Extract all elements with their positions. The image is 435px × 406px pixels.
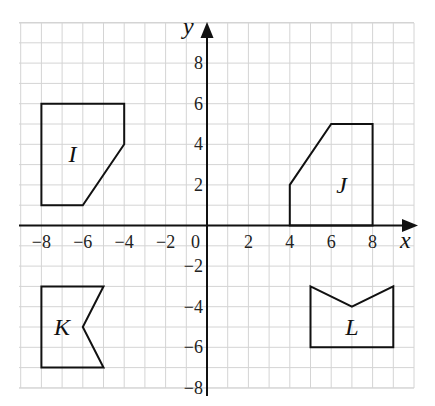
- x-axis-label: x: [399, 227, 411, 253]
- x-tick-label: −4: [115, 232, 134, 252]
- y-tick-label: −6: [184, 337, 203, 357]
- origin-label: 0: [191, 232, 200, 252]
- x-tick-label: −6: [73, 232, 92, 252]
- x-tick-label: −2: [156, 232, 175, 252]
- coordinate-grid-figure: x y 0 −8−6−4−224688642−2−4−6−8 IJKL: [0, 0, 435, 406]
- shape-k-label: K: [53, 314, 72, 340]
- y-tick-label: 8: [194, 53, 203, 73]
- y-tick-label: 2: [194, 175, 203, 195]
- y-tick-label: 6: [194, 94, 203, 114]
- y-tick-label: −8: [184, 378, 203, 398]
- x-tick-label: 6: [327, 232, 336, 252]
- shapes: IJKL: [41, 104, 393, 368]
- y-tick-label: −2: [184, 256, 203, 276]
- shape-l-label: L: [344, 314, 358, 340]
- x-tick-label: 2: [244, 232, 253, 252]
- x-tick-label: 8: [368, 232, 377, 252]
- x-tick-label: −8: [32, 232, 51, 252]
- y-axis-arrow-icon: [201, 22, 214, 38]
- x-tick-label: 4: [285, 232, 294, 252]
- y-tick-label: −4: [184, 297, 203, 317]
- shape-i-label: I: [67, 141, 77, 167]
- shape-j-label: J: [336, 172, 348, 198]
- y-axis-label: y: [181, 13, 194, 39]
- y-tick-label: 4: [194, 134, 203, 154]
